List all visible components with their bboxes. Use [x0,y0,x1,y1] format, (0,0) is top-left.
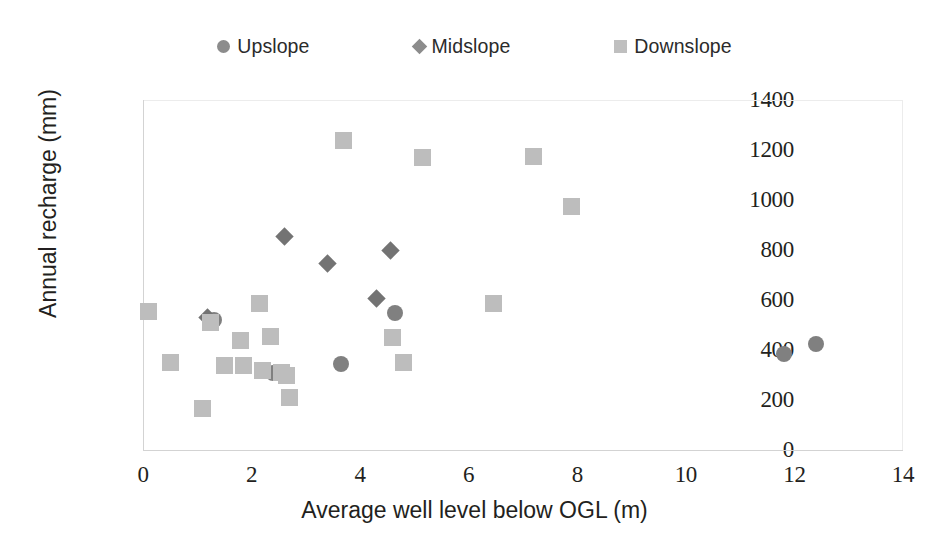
data-point-downslope [395,354,412,371]
y-axis-line [143,100,144,450]
x-axis-line [143,450,903,451]
x-tick-label: 14 [873,462,933,488]
scatter-chart: Upslope Midslope Downslope Annual rechar… [0,0,949,557]
data-point-downslope [235,357,252,374]
downslope-square-marker-icon [614,40,627,53]
data-point-upslope [808,336,824,352]
midslope-diamond-marker-icon [411,38,427,54]
data-point-downslope [485,295,502,312]
upslope-circle-marker-icon [217,40,230,53]
data-point-downslope [384,329,401,346]
data-point-midslope [367,290,385,308]
data-point-downslope [162,354,179,371]
plot-area [143,100,903,450]
data-point-downslope [262,328,279,345]
y-axis-title: Annual recharge (mm) [35,0,62,414]
data-point-downslope [281,389,298,406]
legend-label-upslope: Upslope [237,35,309,58]
data-point-upslope [387,305,403,321]
x-tick-label: 6 [439,462,499,488]
x-tick-label: 8 [547,462,607,488]
data-point-downslope [278,367,295,384]
x-tick-label: 12 [764,462,824,488]
data-point-downslope [251,295,268,312]
data-point-downslope [140,303,157,320]
x-tick-label: 10 [656,462,716,488]
data-point-downslope [525,148,542,165]
legend-item-midslope: Midslope [414,35,511,58]
legend-label-midslope: Midslope [432,35,511,58]
data-point-downslope [202,314,219,331]
data-point-downslope [335,132,352,149]
data-point-upslope [333,356,349,372]
x-tick-label: 2 [222,462,282,488]
data-point-downslope [216,357,233,374]
legend-item-upslope: Upslope [217,35,309,58]
legend-label-downslope: Downslope [634,35,731,58]
x-tick-label: 0 [113,462,173,488]
data-point-downslope [232,332,249,349]
data-point-downslope [194,400,211,417]
x-axis-title: Average well level below OGL (m) [0,497,949,524]
data-point-downslope [414,149,431,166]
plot-top-border [143,100,903,101]
chart-legend: Upslope Midslope Downslope [0,28,949,64]
data-point-upslope [776,346,792,362]
data-point-midslope [381,241,399,259]
data-point-downslope [254,362,271,379]
legend-item-downslope: Downslope [614,35,731,58]
data-point-downslope [563,198,580,215]
x-tick-label: 4 [330,462,390,488]
data-point-midslope [275,227,293,245]
plot-right-border [902,100,903,450]
data-point-midslope [318,255,336,273]
